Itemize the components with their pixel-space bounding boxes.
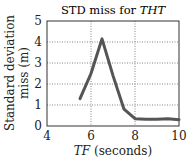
x-tick-label: 10 <box>171 129 186 143</box>
x-tick-label: 6 <box>87 129 95 143</box>
y-tick-label: 4 <box>34 35 42 49</box>
std-miss-chart: STD miss for THT 46810 012345 TF (second… <box>0 0 187 161</box>
y-tick-label: 1 <box>34 98 42 112</box>
svg-text:miss (m): miss (m) <box>17 47 31 99</box>
y-axis-label: Standard deviation miss (m) <box>3 15 31 131</box>
x-tick-label: 4 <box>43 129 51 143</box>
y-tick-label: 0 <box>34 119 42 133</box>
y-tick-label: 5 <box>34 14 42 28</box>
x-tick-label: 8 <box>131 129 139 143</box>
svg-text:Standard deviation: Standard deviation <box>3 15 17 131</box>
y-tick-label: 3 <box>34 56 42 70</box>
x-axis-label: TF (seconds) <box>74 144 152 158</box>
y-tick-labels: 012345 <box>34 14 42 133</box>
chart-title: STD miss for THT <box>61 3 167 17</box>
x-tick-labels: 46810 <box>43 129 186 143</box>
std-miss-line <box>80 39 179 120</box>
y-tick-label: 2 <box>34 77 42 91</box>
